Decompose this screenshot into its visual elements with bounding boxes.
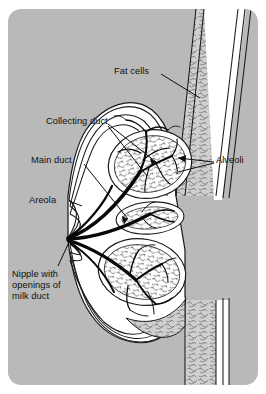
label-areola: Areola: [29, 195, 56, 206]
label-fat-cells: Fat cells: [114, 66, 149, 77]
label-nipple-line-2: openings of: [12, 280, 61, 290]
label-alveoli: Alveoli: [216, 155, 244, 166]
label-collecting-duct: Collecting duct: [46, 116, 108, 127]
label-main-duct: Main duct: [31, 155, 72, 166]
breast-anatomy-figure: Fat cells Collecting duct Main duct Alve…: [0, 0, 266, 394]
label-nipple-openings: Nipple withopenings ofmilk duct: [12, 269, 61, 303]
label-nipple-line-3: milk duct: [12, 291, 49, 301]
label-nipple-line-1: Nipple with: [12, 269, 58, 279]
